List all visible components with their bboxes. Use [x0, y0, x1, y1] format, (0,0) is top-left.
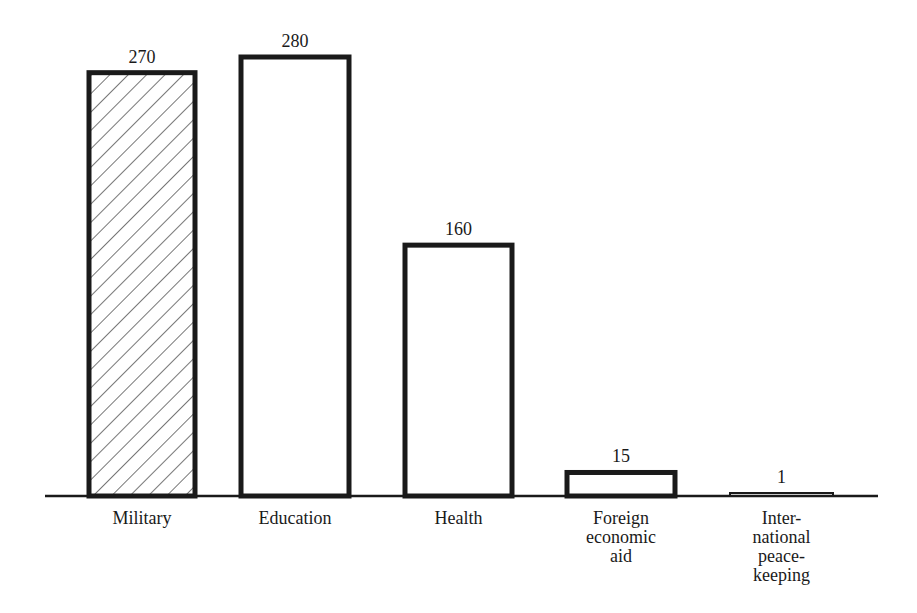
category-label: Foreign economic aid: [586, 509, 656, 566]
category-label: Health: [435, 509, 483, 528]
value-label: 1: [777, 467, 786, 488]
bars-group: [89, 57, 833, 496]
value-label: 15: [612, 446, 630, 467]
bar-education: [241, 57, 349, 496]
value-label: 270: [129, 47, 156, 68]
category-label: Education: [259, 509, 332, 528]
bar-foreign-economic-aid: [567, 472, 675, 496]
value-label: 280: [282, 31, 309, 52]
bar-health: [405, 245, 512, 496]
category-label: Military: [113, 509, 172, 528]
bar-military: [89, 73, 195, 496]
value-label: 160: [445, 219, 472, 240]
category-label: Inter- national peace- keeping: [753, 509, 811, 585]
